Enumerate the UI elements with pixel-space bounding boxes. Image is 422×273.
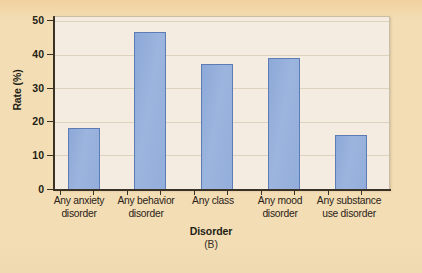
bar-any-behavior-disorder[interactable] [134, 32, 166, 189]
x-category-label-4-line1: Any substance [297, 195, 401, 208]
y-tick-label-10: 10 [14, 149, 44, 161]
y-tick-50 [47, 20, 54, 21]
y-axis-line [53, 16, 55, 191]
y-tick-10 [47, 155, 54, 156]
gridline-40 [55, 55, 389, 56]
bar-any-anxiety-disorder[interactable] [68, 128, 100, 189]
bar-any-mood-disorder[interactable] [268, 58, 300, 189]
y-axis-title: Rate (%) [11, 50, 23, 130]
x-axis-title: Disorder [0, 225, 422, 237]
panel-letter: (B) [0, 239, 422, 250]
plot-area [54, 16, 390, 190]
y-tick-label-0: 0 [14, 183, 44, 195]
bar-any-substance-use-disorder[interactable] [335, 135, 367, 189]
x-category-label-1-line2: disorder [97, 208, 195, 221]
x-category-label-4-line2: use disorder [297, 208, 401, 221]
y-tick-0 [47, 189, 54, 190]
y-tick-label-50: 50 [14, 14, 44, 26]
x-category-label-4: Any substance use disorder [297, 195, 401, 220]
x-axis-line [53, 189, 391, 191]
bar-any-class[interactable] [201, 64, 233, 189]
y-tick-20 [47, 121, 54, 122]
y-tick-30 [47, 88, 54, 89]
gridline-50 [55, 21, 389, 22]
bar-chart-figure: 50 40 30 20 10 0 Rate (%) Any anxiety di… [0, 0, 422, 273]
y-tick-40 [47, 54, 54, 55]
